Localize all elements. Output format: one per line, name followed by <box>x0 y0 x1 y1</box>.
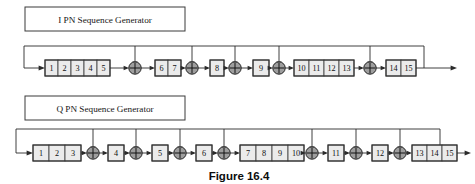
wire-arrowhead-q-g1-a1 <box>125 151 130 156</box>
xor-adder-i-4 <box>273 62 285 74</box>
register-cell-label-i-6: 6 <box>159 64 163 73</box>
wire-arrowhead-q-g5-a5 <box>345 151 350 156</box>
input-arrow-i-pn <box>24 65 45 70</box>
output-arrowhead-q-pn <box>465 150 471 155</box>
generator-i-pn: I PN Sequence Generator <box>24 7 457 76</box>
register-group-i-4: 10 11 12 13 <box>294 60 354 76</box>
register-cell-label-i-11: 11 <box>313 64 321 73</box>
register-cell-label-i-10: 10 <box>297 64 305 73</box>
register-cell-label-q-6: 6 <box>202 149 206 158</box>
register-cell-label-i-12: 12 <box>327 64 335 73</box>
input-arrow-q-pn <box>16 150 33 155</box>
register-cell-label-q-4: 4 <box>114 149 118 158</box>
wire-arrowhead-q-a2-g3 <box>191 151 196 156</box>
wire-arrowhead-i-g1-a1 <box>181 66 186 71</box>
wire-arrowhead-q-a0-g1 <box>103 151 108 156</box>
register-cell-label-q-8: 8 <box>262 149 266 158</box>
register-cell-label-q-5: 5 <box>158 149 162 158</box>
register-group-q-6: 12 <box>372 145 388 161</box>
register-cell-label-i-14: 14 <box>389 64 397 73</box>
xor-adder-q-5 <box>306 147 318 159</box>
wire-arrowhead-q-a6-g7 <box>407 151 412 156</box>
register-group-i-1: 6 7 <box>155 60 181 76</box>
wire-arrowhead-q-g2-a2 <box>169 151 174 156</box>
pn-sequence-generator-diagram: I PN Sequence Generator <box>0 0 475 184</box>
register-cell-label-q-1: 1 <box>39 149 43 158</box>
register-group-i-3: 9 <box>253 60 269 76</box>
xor-adder-q-3 <box>174 147 186 159</box>
wire-arrowhead-i-a4-g5 <box>381 66 386 71</box>
register-cell-label-q-7: 7 <box>246 149 250 158</box>
wire-arrowhead-q-g3-a3 <box>213 151 218 156</box>
register-cell-label-i-5: 5 <box>101 64 105 73</box>
register-cell-label-i-13: 13 <box>342 64 350 73</box>
register-cell-label-i-7: 7 <box>172 64 176 73</box>
wire-arrowhead-i-a3-g4 <box>289 66 294 71</box>
wire-arrowhead-q-a1-g2 <box>147 151 152 156</box>
title-label-i-pn: I PN Sequence Generator <box>58 15 152 25</box>
generator-q-pn: Q PN Sequence Generator <box>16 96 471 161</box>
register-cell-label-q-12: 12 <box>376 149 384 158</box>
register-group-q-0: 1 2 3 <box>33 145 81 161</box>
xor-adder-i-5 <box>364 62 376 74</box>
output-arrow-q-pn <box>457 150 471 155</box>
register-cell-label-q-13: 13 <box>415 149 423 158</box>
register-cell-label-i-15: 15 <box>404 64 412 73</box>
output-arrow-i-pn <box>416 65 457 70</box>
register-group-i-0: 1 2 3 4 5 <box>45 60 110 76</box>
wire-arrowhead-i-a1-g2 <box>205 66 210 71</box>
wire-arrowhead-q-g6-a6 <box>389 151 394 156</box>
register-cell-label-i-3: 3 <box>75 64 79 73</box>
register-group-q-3: 6 <box>196 145 212 161</box>
wire-arrowhead-q-a5-g6 <box>367 151 372 156</box>
input-arrowhead-q-pn <box>27 150 33 155</box>
title-label-q-pn: Q PN Sequence Generator <box>56 104 153 114</box>
register-cell-label-q-10: 10 <box>292 149 300 158</box>
xor-adder-q-7 <box>394 147 406 159</box>
xor-adder-i-1 <box>129 62 141 74</box>
register-cell-label-q-9: 9 <box>278 149 282 158</box>
register-group-q-5: 11 <box>328 145 344 161</box>
wire-arrowhead-i-g4-a4 <box>359 66 364 71</box>
register-cell-label-i-9: 9 <box>259 64 263 73</box>
wire-arrowhead-q-a4-g5 <box>323 151 328 156</box>
title-box-i-pn: I PN Sequence Generator <box>25 7 185 31</box>
register-cell-label-i-4: 4 <box>88 64 92 73</box>
figure-caption: Figure 16.4 <box>209 170 270 182</box>
wire-arrowhead-i-a0-g1 <box>150 66 155 71</box>
figure-container: I PN Sequence Generator <box>0 0 475 184</box>
register-cell-label-i-2: 2 <box>62 64 66 73</box>
register-cell-label-q-3: 3 <box>71 149 75 158</box>
register-cell-label-q-2: 2 <box>55 149 59 158</box>
register-cell-label-q-14: 14 <box>430 149 438 158</box>
register-group-q-2: 5 <box>152 145 168 161</box>
register-cell-label-i-1: 1 <box>49 64 53 73</box>
xor-adder-i-3 <box>229 62 241 74</box>
register-group-q-4: 7 8 9 10 <box>240 145 304 161</box>
xor-adder-q-6 <box>350 147 362 159</box>
register-group-i-2: 8 <box>210 60 224 76</box>
register-group-q-7: 13 14 15 <box>412 145 457 161</box>
wire-arrowhead-q-g0-a0 <box>82 151 87 156</box>
title-box-q-pn: Q PN Sequence Generator <box>25 96 185 120</box>
wire-arrowhead-i-a2-g3 <box>248 66 253 71</box>
register-cell-label-q-11: 11 <box>332 149 340 158</box>
input-arrowhead-i-pn <box>39 65 45 70</box>
xor-adder-i-2 <box>186 62 198 74</box>
register-group-i-5: 14 15 <box>386 60 416 76</box>
wire-arrowhead-i-g3-a3 <box>268 66 273 71</box>
register-cell-label-q-15: 15 <box>445 149 453 158</box>
register-group-q-1: 4 <box>108 145 124 161</box>
wire-arrowhead-i-g0-a0 <box>124 66 129 71</box>
wire-arrowhead-q-a3-g4 <box>235 151 240 156</box>
xor-adder-q-4 <box>218 147 230 159</box>
register-cell-label-i-8: 8 <box>215 64 219 73</box>
xor-adder-q-1 <box>87 147 99 159</box>
output-arrowhead-i-pn <box>451 65 457 70</box>
xor-adder-q-2 <box>130 147 142 159</box>
wire-arrowhead-i-g2-a2 <box>224 66 229 71</box>
